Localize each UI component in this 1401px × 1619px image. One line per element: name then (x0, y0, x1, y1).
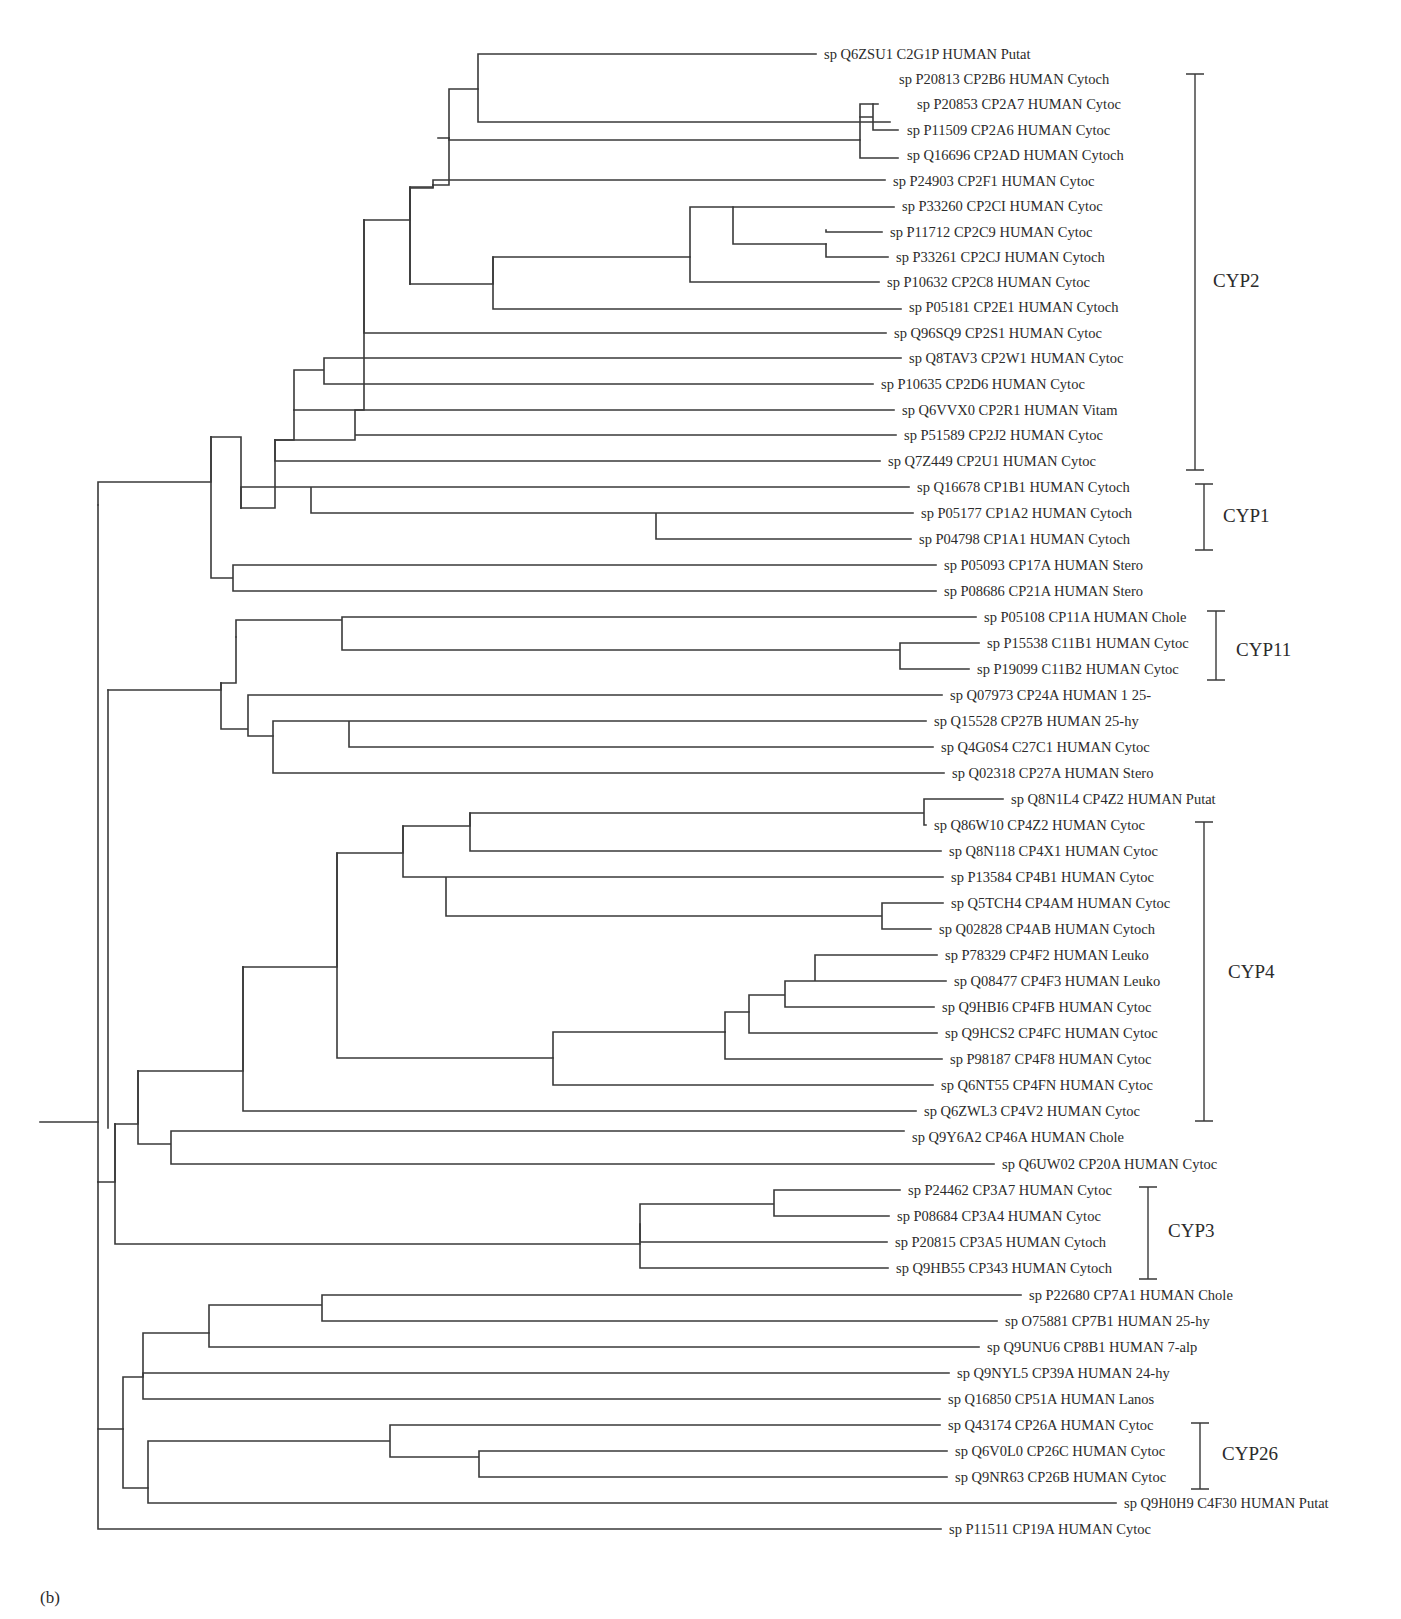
tree-branch (275, 410, 294, 440)
tree-branch (640, 1224, 888, 1268)
tree-branch (115, 1124, 900, 1244)
leaf-label: sp Q4G0S4 C27C1 HUMAN Cytoc (941, 739, 1150, 755)
tree-branch (275, 410, 896, 440)
leaf-label: sp Q08477 CP4F3 HUMAN Leuko (954, 973, 1160, 989)
leaf-label: sp Q86W10 CP4Z2 HUMAN Cytoc (934, 817, 1145, 833)
leaf-label: sp P33260 CP2CI HUMAN Cytoc (902, 198, 1103, 214)
tree-branch (690, 257, 879, 282)
leaf-label: sp O75881 CP7B1 HUMAN 25-hy (1005, 1313, 1210, 1329)
leaf-label: sp P05093 CP17A HUMAN Stero (944, 557, 1143, 573)
tree-branch (433, 180, 885, 185)
leaf-label: sp Q9H0H9 C4F30 HUMAN Putat (1124, 1495, 1329, 1511)
leaf-label: sp Q07973 CP24A HUMAN 1 25- (950, 687, 1151, 703)
tree-branch (243, 799, 1003, 967)
tree-branch (410, 207, 733, 284)
clade-brackets: CYP2CYP1CYP11CYP4CYP3CYP26 (1139, 74, 1291, 1489)
tree-branch (123, 1425, 947, 1488)
panel-label: (b) (40, 1588, 60, 1608)
leaf-label: sp Q8N118 CP4X1 HUMAN Cytoc (949, 843, 1158, 859)
leaf-label: sp P11509 CP2A6 HUMAN Cytoc (907, 122, 1110, 138)
leaf-label: sp P10635 CP2D6 HUMAN Cytoc (881, 376, 1085, 392)
tree-branch (138, 967, 243, 1071)
leaf-label: sp Q9Y6A2 CP46A HUMAN Chole (912, 1129, 1124, 1145)
tree-branch (221, 683, 942, 736)
clade-bracket-cyp2: CYP2 (1186, 74, 1259, 470)
leaf-label: sp P20815 CP3A5 HUMAN Cytoch (895, 1234, 1107, 1250)
leaf-label: sp P11712 CP2C9 HUMAN Cytoc (890, 224, 1093, 240)
leaf-label: sp P05108 CP11A HUMAN Chole (984, 609, 1187, 625)
tree-branch (860, 104, 898, 130)
tree-branch (725, 955, 946, 1032)
leaf-label: sp P04798 CP1A1 HUMAN Cytoch (919, 531, 1131, 547)
leaf-label: sp Q6NT55 CP4FN HUMAN Cytoc (941, 1077, 1153, 1093)
leaf-label: sp P24462 CP3A7 HUMAN Cytoc (908, 1182, 1112, 1198)
leaf-label: sp P08686 CP21A HUMAN Stero (944, 583, 1143, 599)
leaf-label: sp Q6V0L0 CP26C HUMAN Cytoc (955, 1443, 1165, 1459)
leaf-label: sp Q6UW02 CP20A HUMAN Cytoc (1002, 1156, 1217, 1172)
leaf-label: sp P10632 CP2C8 HUMAN Cytoc (887, 274, 1090, 290)
leaf-label: sp Q16696 CP2AD HUMAN Cytoch (907, 147, 1124, 163)
tree-branch (860, 140, 898, 158)
leaf-label: sp Q6ZWL3 CP4V2 HUMAN Cytoc (924, 1103, 1140, 1119)
tree-branch (478, 89, 890, 122)
leaf-label: sp Q7Z449 CP2U1 HUMAN Cytoc (888, 453, 1096, 469)
leaf-label: sp P19099 C11B2 HUMAN Cytoc (977, 661, 1179, 677)
tree-branch (725, 1012, 942, 1059)
leaf-label: sp P24903 CP2F1 HUMAN Cytoc (893, 173, 1094, 189)
tree-branch (98, 1124, 115, 1182)
tree-branch (115, 1071, 138, 1124)
tree-canvas: sp Q6ZSU1 C2G1P HUMAN Putatsp P20813 CP2… (0, 0, 1401, 1619)
leaf-label: sp Q02828 CP4AB HUMAN Cytoch (939, 921, 1156, 937)
leaf-label: sp P33261 CP2CJ HUMAN Cytoch (896, 249, 1105, 265)
leaf-label: sp Q6ZSU1 C2G1P HUMAN Putat (824, 46, 1031, 62)
leaf-label: sp Q5TCH4 CP4AM HUMAN Cytoc (951, 895, 1170, 911)
leaf-label: sp P05181 CP2E1 HUMAN Cytoch (909, 299, 1119, 315)
leaf-label: sp P78329 CP4F2 HUMAN Leuko (945, 947, 1149, 963)
leaf-label: sp Q16850 CP51A HUMAN Lanos (948, 1391, 1155, 1407)
tree-branch (364, 220, 886, 333)
leaf-label: sp P51589 CP2J2 HUMAN Cytoc (904, 427, 1103, 443)
tree-branch (553, 1058, 933, 1085)
clade-bracket-cyp11: CYP11 (1207, 611, 1291, 680)
tree-branch (221, 637, 236, 683)
phylogenetic-tree-figure: sp Q6ZSU1 C2G1P HUMAN Putatsp P20813 CP2… (0, 0, 1401, 1619)
leaf-label: sp P15538 C11B1 HUMAN Cytoc (987, 635, 1189, 651)
leaf-label: sp Q6VVX0 CP2R1 HUMAN Vitam (902, 402, 1118, 418)
tree-branch (364, 187, 433, 220)
tree-branch (438, 54, 816, 138)
tree-branch (236, 617, 979, 669)
leaf-label: sp Q15528 CP27B HUMAN 25-hy (934, 713, 1139, 729)
tree-branch (241, 440, 275, 508)
leaf-label: sp P20853 CP2A7 HUMAN Cytoc (917, 96, 1121, 112)
leaf-label: sp P22680 CP7A1 HUMAN Chole (1029, 1287, 1233, 1303)
leaf-label: sp Q16678 CP1B1 HUMAN Cytoch (917, 479, 1130, 495)
clade-label: CYP4 (1228, 961, 1275, 982)
clade-bracket-cyp4: CYP4 (1195, 822, 1275, 1121)
tree-branch (108, 683, 221, 690)
leaf-label: sp Q8N1L4 CP4Z2 HUMAN Putat (1011, 791, 1216, 807)
tree-branch (241, 487, 913, 539)
leaf-label: sp Q8TAV3 CP2W1 HUMAN Cytoc (909, 350, 1123, 366)
tree-branch (275, 440, 880, 461)
tree-branch (243, 967, 916, 1111)
tree-branch (433, 138, 449, 185)
leaf-label: sp Q9NYL5 CP39A HUMAN 24-hy (957, 1365, 1170, 1381)
leaf-label: sp Q43174 CP26A HUMAN Cytoc (948, 1417, 1153, 1433)
tree-branch (826, 230, 888, 257)
clade-label: CYP26 (1222, 1443, 1278, 1464)
tree-branch (98, 1429, 941, 1529)
tree-branch (733, 207, 894, 244)
clade-bracket-cyp1: CYP1 (1195, 484, 1269, 550)
leaf-label: sp P08684 CP3A4 HUMAN Cytoc (897, 1208, 1101, 1224)
tree-branch (493, 257, 901, 309)
clade-bracket-cyp26: CYP26 (1191, 1423, 1278, 1489)
tree-branch (211, 437, 936, 591)
clade-label: CYP1 (1223, 505, 1269, 526)
tree-branch (470, 813, 941, 851)
clade-label: CYP3 (1168, 1220, 1214, 1241)
tree-branch (211, 437, 241, 508)
leaf-label: sp Q96SQ9 CP2S1 HUMAN Cytoc (894, 325, 1102, 341)
tree-branch (294, 358, 901, 410)
tree-branch (123, 1295, 1021, 1429)
leaf-label: sp P11511 CP19A HUMAN Cytoc (949, 1521, 1151, 1537)
